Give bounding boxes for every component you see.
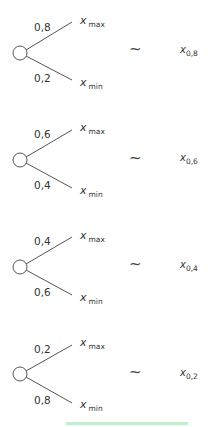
- prob-min: 0,4: [34, 179, 51, 191]
- certainty-equivalent: x0,6: [180, 152, 198, 166]
- outcome-min: xmin: [80, 291, 103, 306]
- prob-max: 0,2: [34, 343, 51, 355]
- lottery-block-1: 0,8 0,2 xmax xmin ~ x0,8: [0, 0, 213, 107]
- equivalence-symbol: ~: [129, 40, 142, 58]
- certainty-equivalent: x0,8: [180, 44, 198, 58]
- lottery-block-4: 0,2 0,8 xmax xmin ~ x0,2: [0, 321, 213, 427]
- prob-max: 0,8: [34, 21, 51, 33]
- prob-min: 0,8: [34, 394, 51, 406]
- outcome-max: xmax: [80, 336, 105, 351]
- equivalence-symbol: ~: [129, 255, 142, 273]
- outcome-min: xmin: [80, 398, 103, 413]
- outcome-max: xmax: [80, 229, 105, 244]
- outcome-max: xmax: [80, 121, 105, 136]
- chance-node-icon: [13, 260, 27, 274]
- chance-node-icon: [13, 153, 27, 167]
- prob-min: 0,2: [34, 72, 51, 84]
- certainty-equivalent: x0,2: [180, 367, 198, 381]
- equivalence-symbol: ~: [129, 363, 142, 381]
- lottery-block-3: 0,4 0,6 xmax xmin ~ x0,4: [0, 214, 213, 321]
- prob-max: 0,4: [34, 235, 51, 247]
- prob-min: 0,6: [34, 286, 51, 298]
- outcome-min: xmin: [80, 184, 103, 199]
- chance-node-icon: [13, 367, 27, 381]
- outcome-min: xmin: [80, 76, 103, 91]
- prob-max: 0,6: [34, 128, 51, 140]
- certainty-equivalent: x0,4: [180, 259, 198, 273]
- highlight-bar: [66, 422, 188, 425]
- equivalence-symbol: ~: [129, 149, 142, 167]
- chance-node-icon: [13, 46, 27, 60]
- outcome-max: xmax: [80, 14, 105, 29]
- lottery-block-2: 0,6 0,4 xmax xmin ~ x0,6: [0, 107, 213, 214]
